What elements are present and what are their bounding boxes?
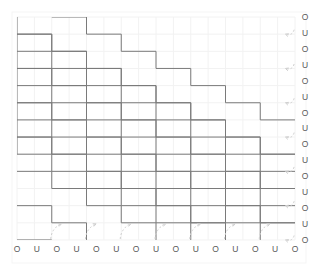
bottom-axis-label: U <box>74 244 80 254</box>
right-axis-label: U <box>302 187 308 197</box>
bottom-axis-label: U <box>34 244 40 254</box>
bottom-axis-label: O <box>173 244 180 254</box>
right-axis-label: U <box>302 60 308 70</box>
bottom-axis-label: O <box>14 244 21 254</box>
right-axis-label: O <box>302 12 309 22</box>
bottom-axis-label: O <box>53 244 60 254</box>
right-axis-label: O <box>302 108 309 118</box>
lattice-staircase-figure: OUOUOUOUOUOUOUOOUOUOUOUOUOUOUO <box>0 0 313 275</box>
right-axis-label: O <box>302 171 309 181</box>
bottom-axis-label: U <box>232 244 238 254</box>
right-axis-label: O <box>302 76 309 86</box>
bottom-axis-label: U <box>193 244 199 254</box>
bottom-axis-label: O <box>212 244 219 254</box>
bottom-axis-label: U <box>272 244 278 254</box>
right-axis-label: O <box>302 203 309 213</box>
bottom-axis-label: O <box>252 244 259 254</box>
bottom-axis-label: O <box>133 244 140 254</box>
bottom-axis-label: O <box>93 244 100 254</box>
right-axis-label: O <box>302 139 309 149</box>
right-axis-label: O <box>302 44 309 54</box>
right-axis-label: U <box>302 28 308 38</box>
bottom-axis-label: U <box>153 244 159 254</box>
right-axis-label: U <box>302 123 308 133</box>
figure-canvas: OUOUOUOUOUOUOUOOUOUOUOUOUOUOUO <box>0 0 313 275</box>
bottom-axis-label: U <box>113 244 119 254</box>
right-axis-label: U <box>302 219 308 229</box>
right-axis-label: O <box>302 235 309 245</box>
right-axis-label: U <box>302 92 308 102</box>
bottom-axis-label: O <box>292 244 299 254</box>
right-axis-label: U <box>302 155 308 165</box>
